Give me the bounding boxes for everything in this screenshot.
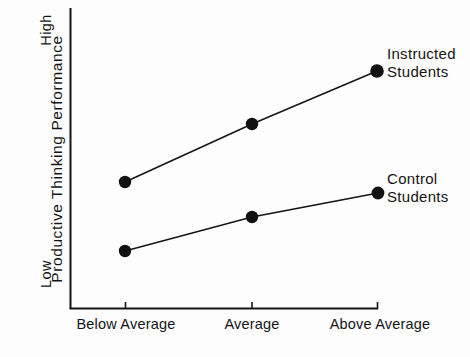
series-label-instructed-students: Instructed Students [387,45,456,80]
data-point-instructed-average [246,118,258,130]
series-label-control-students: Control Students [387,170,449,205]
x-tick-label-average: Average [202,316,302,332]
data-point-instructed-below-average [119,176,131,188]
y-axis-low-label: Low [38,247,54,301]
series-label-control-line2: Students [387,188,449,206]
data-point-instructed-above-average [370,64,384,78]
data-point-control-below-average [119,245,131,257]
x-tick-label-above-average: Above Average [318,316,442,332]
series-label-instructed-line2: Students [387,63,456,81]
line-chart-figure: Productive Thinking Performance High Low… [0,0,470,357]
y-axis-high-label: High [38,0,54,60]
series-label-control-line1: Control [387,170,449,188]
series-label-instructed-line1: Instructed [387,45,456,63]
data-point-control-above-average [372,187,385,200]
data-point-control-average [246,211,258,223]
x-tick-label-below-average: Below Average [66,316,186,332]
